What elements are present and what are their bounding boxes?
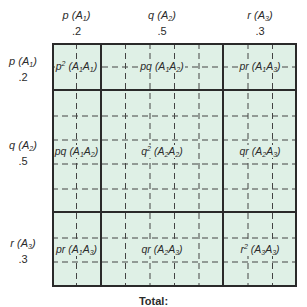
- cell-q2: q2 (A2A2): [101, 90, 223, 212]
- cell-pr-row1: pr (A1A3): [223, 43, 297, 90]
- cell-qr-row3: qr (A2A3): [101, 212, 223, 287]
- cell-r2: r2 (A3A3): [223, 212, 297, 287]
- column-header-q: q (A2) .5: [101, 9, 223, 37]
- header-frequency: .3: [0, 253, 46, 265]
- header-symbol: q (A2): [148, 9, 176, 21]
- punnett-grid: p2 (A1A1) pq (A1A2) pr (A1A3) pq (A1A2) …: [52, 43, 297, 287]
- header-frequency: .2: [0, 71, 46, 83]
- cell-p2: p2 (A1A1): [52, 43, 101, 90]
- row-header-p: p (A1) .2: [0, 55, 46, 83]
- total-label: Total:: [0, 295, 307, 307]
- cell-pq-row2: pq (A1A2): [52, 90, 101, 212]
- row-header-r: r (A3) .3: [0, 237, 46, 265]
- cell-qr-row2: qr (A2A3): [223, 90, 297, 212]
- header-frequency: .5: [0, 155, 46, 167]
- header-symbol: p (A1): [63, 9, 91, 21]
- header-frequency: .5: [101, 25, 223, 37]
- column-header-r: r (A3) .3: [223, 9, 297, 37]
- header-frequency: .3: [223, 25, 297, 37]
- column-header-p: p (A1) .2: [52, 9, 101, 37]
- cell-pr-row3: pr (A1A3): [52, 212, 101, 287]
- header-symbol: r (A3): [10, 237, 35, 249]
- header-symbol: r (A3): [247, 9, 272, 21]
- cell-pq-row1: pq (A1A2): [101, 43, 223, 90]
- header-symbol: p (A1): [9, 55, 37, 67]
- header-frequency: .2: [52, 25, 101, 37]
- header-symbol: q (A2): [9, 139, 37, 151]
- row-header-q: q (A2) .5: [0, 139, 46, 167]
